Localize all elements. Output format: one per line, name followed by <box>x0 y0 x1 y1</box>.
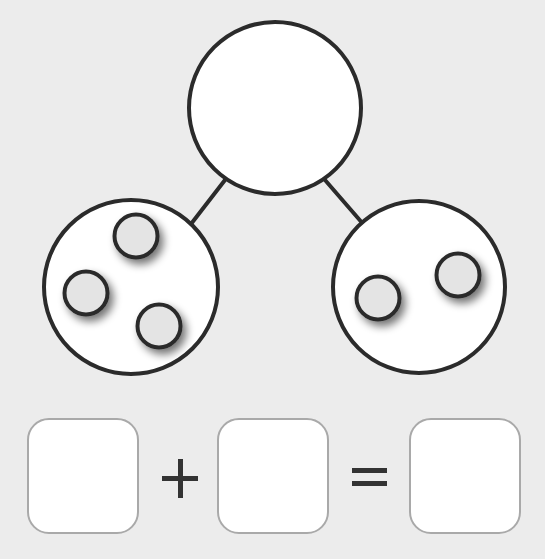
plus-icon-vertical <box>178 459 183 498</box>
addend-1-box[interactable] <box>27 418 139 534</box>
counter-icon <box>138 305 181 348</box>
equals-icon-bottom-bar <box>352 481 387 486</box>
equals-icon-top-bar <box>352 468 387 473</box>
addend-2-box[interactable] <box>217 418 329 534</box>
addend-2-value <box>219 420 220 421</box>
counter-icon <box>437 254 480 297</box>
connector-line-left <box>191 180 225 224</box>
sum-box[interactable] <box>409 418 521 534</box>
counter-icon <box>115 215 158 258</box>
number-bond-diagram <box>0 0 545 400</box>
sum-value <box>411 420 412 421</box>
addend-1-value <box>29 420 30 421</box>
whole-circle[interactable] <box>189 22 361 194</box>
counter-icon <box>357 277 400 320</box>
counter-icon <box>65 272 108 315</box>
connector-line-right <box>325 180 364 225</box>
number-bond-worksheet: + = <box>0 0 545 559</box>
